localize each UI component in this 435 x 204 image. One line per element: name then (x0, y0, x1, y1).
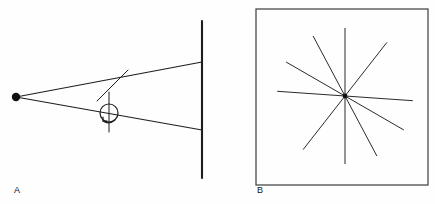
panel-a-label: A (14, 185, 20, 195)
deflected-segment-line (97, 70, 128, 101)
figure-root: A B (0, 0, 435, 204)
detector-field-box (256, 9, 428, 185)
figure-canvas: A B (0, 0, 435, 204)
point-source-dot (12, 93, 20, 101)
panel-a-group: A (12, 21, 202, 195)
panel-b-label: B (257, 185, 263, 195)
starburst-hub-dot (343, 94, 348, 99)
spin-arrow-head (103, 117, 107, 121)
panel-b-group: B (256, 9, 428, 195)
